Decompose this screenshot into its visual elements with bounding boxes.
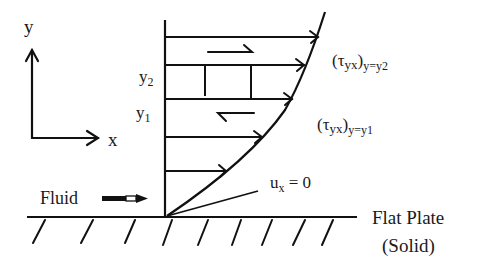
fluid-element	[205, 65, 251, 99]
flat-plate-label: Flat Plate	[372, 207, 444, 228]
y2-label: y2	[139, 67, 154, 89]
fluid-label: Fluid	[40, 188, 78, 208]
velocity-profile-diagram: y x y2 y1 (τyx)y=y2 (τyx)y=y1 ux = 0 Flu…	[0, 0, 480, 270]
upper-shear-stress-label: (τyx)y=y2	[332, 51, 388, 73]
plate-hatching	[33, 220, 333, 245]
lower-shear-half-arrow-icon	[218, 113, 254, 121]
x-axis-label: x	[108, 129, 118, 150]
upper-shear-half-arrow-icon	[208, 45, 252, 52]
fluid-flow-arrow-icon	[102, 194, 148, 203]
boundary-condition-label: ux = 0	[270, 173, 311, 195]
shear-stress-arrows	[208, 45, 254, 121]
lower-shear-stress-label: (τyx)y=y1	[317, 115, 373, 137]
coordinate-axes	[26, 50, 98, 145]
zero-velocity-line	[167, 191, 258, 216]
y1-label: y1	[136, 103, 151, 125]
y-axis-label: y	[24, 16, 34, 37]
solid-label: (Solid)	[382, 235, 435, 257]
